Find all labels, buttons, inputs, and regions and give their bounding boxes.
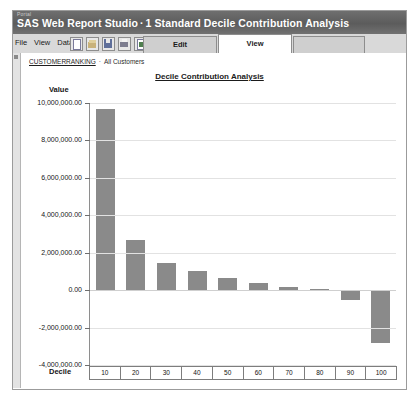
breadcrumb-current: All Customers bbox=[104, 58, 144, 65]
y-axis-tick bbox=[85, 103, 90, 104]
x-axis-tick-labels: 102030405060708090100 bbox=[89, 366, 397, 380]
new-report-icon[interactable] bbox=[70, 37, 83, 51]
y-axis-tick-label: 6,000,000.00 bbox=[41, 174, 82, 181]
chart-title: Decile Contribution Analysis bbox=[13, 72, 406, 81]
x-axis-tick-label[interactable]: 50 bbox=[213, 367, 244, 379]
open-report-icon[interactable] bbox=[86, 37, 99, 51]
y-axis-tick-label: 4,000,000.00 bbox=[41, 211, 82, 218]
bar-decile-100[interactable] bbox=[371, 290, 390, 342]
x-axis-tick-label[interactable]: 90 bbox=[336, 367, 367, 379]
plot-area bbox=[89, 103, 396, 365]
app-name-label: SAS Web Report Studio bbox=[17, 17, 138, 29]
bar-decile-10[interactable] bbox=[96, 109, 115, 291]
x-axis-title: Decile bbox=[49, 366, 71, 378]
x-axis-tick-label[interactable]: 80 bbox=[305, 367, 336, 379]
menu-item-view[interactable]: View bbox=[34, 38, 50, 47]
x-axis-tick-label[interactable]: 20 bbox=[121, 367, 152, 379]
application-window: Portal SAS Web Report Studio·1 Standard … bbox=[12, 10, 407, 390]
menu-bar: File View Data bbox=[15, 38, 73, 47]
bar-decile-30[interactable] bbox=[157, 263, 176, 290]
y-axis-tick-label: 10,000,000.00 bbox=[37, 99, 82, 106]
zero-line bbox=[90, 290, 396, 291]
bar-decile-40[interactable] bbox=[188, 271, 207, 290]
y-axis-tick bbox=[85, 140, 90, 141]
gridline bbox=[90, 178, 396, 179]
y-axis-tick-label: 8,000,000.00 bbox=[41, 136, 82, 143]
x-axis-tick-label[interactable]: 40 bbox=[182, 367, 213, 379]
y-axis-tick bbox=[85, 178, 90, 179]
gridline bbox=[90, 253, 396, 254]
title-separator: · bbox=[138, 17, 146, 29]
y-axis-tick bbox=[85, 215, 90, 216]
x-axis-tick-label[interactable]: 60 bbox=[244, 367, 275, 379]
x-axis-tick-label[interactable]: 10 bbox=[90, 367, 121, 379]
bar-decile-20[interactable] bbox=[126, 240, 145, 291]
view-mode-tabs: Edit View bbox=[143, 35, 365, 53]
report-content-area: CUSTOMERRANKING·All Customers Decile Con… bbox=[13, 53, 406, 388]
gridline bbox=[90, 328, 396, 329]
breadcrumb-separator: · bbox=[96, 58, 104, 65]
y-axis-tick-label: 0.00 bbox=[68, 286, 82, 293]
toolbar bbox=[70, 37, 147, 51]
bar-decile-60[interactable] bbox=[249, 283, 268, 290]
report-name-label: 1 Standard Decile Contribution Analysis bbox=[146, 17, 350, 29]
bar-decile-50[interactable] bbox=[218, 278, 237, 290]
gridline bbox=[90, 103, 396, 104]
y-axis-labels: 10,000,000.008,000,000.006,000,000.004,0… bbox=[13, 103, 82, 365]
x-axis-tick-label[interactable]: 30 bbox=[151, 367, 182, 379]
bar-decile-90[interactable] bbox=[341, 290, 360, 300]
y-axis-tick-label: -2,000,000.00 bbox=[39, 324, 82, 331]
tab-view[interactable]: View bbox=[218, 34, 292, 53]
page-title: SAS Web Report Studio·1 Standard Decile … bbox=[17, 17, 349, 29]
x-axis-tick-label[interactable]: 100 bbox=[366, 367, 396, 379]
gridline bbox=[90, 140, 396, 141]
tab-strip-filler bbox=[293, 36, 365, 53]
breadcrumb: CUSTOMERRANKING·All Customers bbox=[29, 58, 144, 65]
menu-item-file[interactable]: File bbox=[15, 38, 27, 47]
menu-toolbar-strip: File View Data bbox=[13, 34, 406, 54]
breadcrumb-root-link[interactable]: CUSTOMERRANKING bbox=[29, 58, 96, 65]
window-title-bar: Portal SAS Web Report Studio·1 Standard … bbox=[13, 11, 406, 34]
y-axis-title: Value bbox=[49, 85, 69, 94]
y-axis-tick bbox=[85, 290, 90, 291]
y-axis-tick-label: 2,000,000.00 bbox=[41, 249, 82, 256]
tab-edit[interactable]: Edit bbox=[143, 36, 217, 53]
print-icon[interactable] bbox=[118, 37, 131, 51]
gutter-handle-icon[interactable] bbox=[14, 55, 18, 59]
y-axis-tick bbox=[85, 253, 90, 254]
save-report-icon[interactable] bbox=[102, 37, 115, 51]
x-axis-tick-label[interactable]: 70 bbox=[274, 367, 305, 379]
y-axis-tick bbox=[85, 328, 90, 329]
bar-series bbox=[90, 103, 396, 365]
gridline bbox=[90, 215, 396, 216]
screenshot-root: Portal SAS Web Report Studio·1 Standard … bbox=[0, 0, 417, 402]
